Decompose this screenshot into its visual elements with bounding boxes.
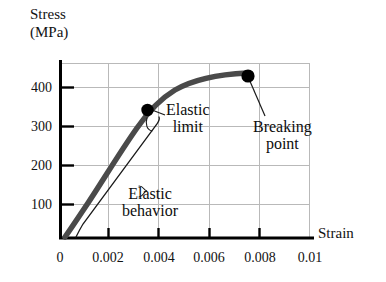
elastic-limit-label: Elasticlimit [166, 101, 210, 135]
elastic-limit-curl [146, 118, 152, 131]
breaking-point-marker[interactable] [241, 69, 254, 82]
breaking-point-label: Breakingpoint [253, 118, 312, 152]
stress-strain-figure: Stress(MPa) Strain 400 300 200 100 0 0.0… [0, 0, 386, 282]
elastic-limit-label-line2: limit [173, 118, 203, 135]
elastic-behavior-label-line2: behavior [122, 202, 178, 219]
y-axis-ticks [60, 88, 74, 205]
breaking-point-label-line1: Breaking [253, 118, 312, 135]
breaking-point-leader [249, 79, 265, 116]
elastic-behavior-label: Elasticbehavior [122, 185, 178, 219]
elastic-limit-label-line1: Elastic [166, 101, 210, 118]
elastic-behavior-line [76, 117, 159, 237]
elastic-behavior-label-line1: Elastic [128, 185, 172, 202]
elastic-limit-marker[interactable] [141, 104, 153, 116]
plot-area [0, 0, 386, 282]
breaking-point-label-line2: point [266, 135, 299, 152]
